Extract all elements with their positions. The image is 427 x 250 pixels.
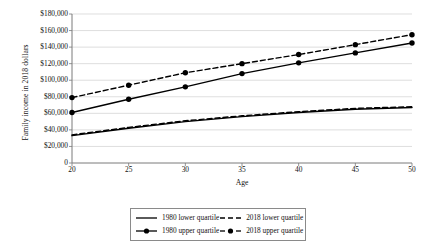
legend-label: 1980 upper quartile	[162, 227, 219, 234]
y-tick-label: $160,000	[22, 27, 68, 34]
y-axis-tick-labels: 0$20,000$40,000$60,000$80,000$100,000$12…	[18, 0, 68, 250]
x-tick-label: 25	[125, 166, 132, 173]
x-tick-label: 45	[352, 166, 359, 173]
chart-figure: Family income in 2018 dollars 0$20,000$4…	[0, 0, 427, 250]
series-line-1	[72, 107, 412, 135]
x-tick-label: 50	[408, 166, 415, 173]
line-dashed-marker-icon	[219, 226, 242, 236]
y-tick-label: $40,000	[22, 126, 68, 133]
chart-legend: 1980 lower quartile 2018 lower quartile …	[130, 208, 306, 241]
series-line-2	[72, 43, 412, 113]
data-point	[409, 32, 414, 37]
data-point	[296, 60, 301, 65]
y-tick-label: $140,000	[22, 43, 68, 50]
y-tick-label: $180,000	[22, 10, 68, 17]
plot-canvas	[72, 14, 412, 163]
x-tick-label: 20	[68, 166, 75, 173]
data-point	[409, 40, 414, 45]
data-point	[183, 70, 188, 75]
y-tick-label: $120,000	[22, 60, 68, 67]
legend-label: 1980 lower quartile	[162, 214, 219, 221]
legend-label: 2018 lower quartile	[246, 214, 303, 221]
data-point	[353, 50, 358, 55]
legend-item-1980-upper-quartile: 1980 upper quartile	[135, 226, 219, 236]
line-dashed-icon	[219, 213, 242, 223]
y-tick-label: $80,000	[22, 93, 68, 100]
line-solid-marker-icon	[135, 226, 158, 236]
legend-item-2018-upper-quartile: 2018 upper quartile	[219, 226, 303, 236]
line-solid-icon	[135, 213, 158, 223]
data-point	[353, 42, 358, 47]
y-tick-label: $20,000	[22, 142, 68, 149]
plot-area	[72, 14, 412, 163]
legend-label: 2018 upper quartile	[246, 227, 303, 234]
x-tick-label: 40	[295, 166, 302, 173]
legend-item-2018-lower-quartile: 2018 lower quartile	[219, 213, 303, 223]
data-point	[126, 82, 131, 87]
data-point	[296, 52, 301, 57]
y-tick-label: $60,000	[22, 109, 68, 116]
legend-row: 1980 lower quartile 2018 lower quartile	[135, 212, 301, 225]
legend-row: 1980 upper quartile 2018 upper quartile	[135, 225, 301, 238]
x-tick-label: 35	[238, 166, 245, 173]
legend-item-1980-lower-quartile: 1980 lower quartile	[135, 213, 219, 223]
x-axis-title: Age	[72, 178, 412, 187]
data-point	[69, 110, 74, 115]
y-tick-label: 0	[22, 159, 68, 166]
data-point	[239, 71, 244, 76]
data-point	[69, 95, 74, 100]
x-tick-label: 30	[182, 166, 189, 173]
data-point	[239, 61, 244, 66]
y-tick-label: $100,000	[22, 76, 68, 83]
series-line-0	[72, 108, 412, 136]
data-point	[183, 84, 188, 89]
data-point	[126, 97, 131, 102]
